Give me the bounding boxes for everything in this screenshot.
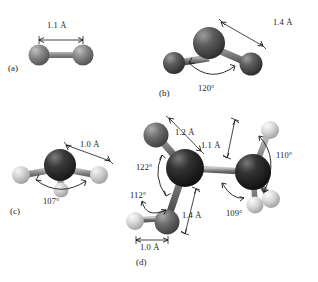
- atom-left-b: [163, 52, 185, 74]
- panel-d-graphic: [128, 110, 318, 282]
- bond-angle-d-3: 109°: [226, 208, 243, 218]
- atom-upper-left-d: [144, 123, 169, 148]
- bond-length-c-1: 1.0 Å: [80, 139, 99, 149]
- panel-c-caption: (c): [10, 206, 20, 216]
- bond-angle-b-1: 120°: [198, 83, 215, 93]
- atom-center-right-d: [235, 154, 271, 190]
- bond-length-d-2: 1.1 Å: [201, 140, 220, 150]
- dimension-line-b-1: [219, 19, 266, 49]
- atom-center-b: [193, 27, 225, 59]
- atom-left-c: [12, 166, 30, 184]
- panel-b: 1.4 Å 120° (b): [159, 0, 318, 105]
- panel-d: 1.2 Å 1.1 Å 1.4 Å 1.0 Å 122° 112° 109° 1…: [128, 110, 318, 282]
- atom-lower-right-2-d: [262, 190, 280, 208]
- atom-lower-right-1-d: [247, 197, 264, 214]
- panel-d-caption: (d): [136, 257, 147, 267]
- bond-angle-d-2: 112°: [130, 190, 146, 200]
- bond-length-b-1: 1.4 Å: [273, 17, 292, 27]
- molecular-geometry-figure: 1.1 Å (a): [0, 0, 318, 282]
- atom-right-a: [73, 45, 94, 66]
- bond-length-d-3: 1.4 Å: [182, 210, 201, 220]
- atom-left-a: [29, 45, 50, 66]
- atom-upper-right-d: [261, 121, 279, 139]
- atom-far-left-d: [126, 212, 144, 230]
- bond-length-d-1: 1.2 Å: [175, 127, 194, 137]
- atom-lower-left-d: [155, 210, 180, 235]
- bond-angle-d-4: 110°: [276, 150, 292, 160]
- atom-center-left-d: [166, 149, 204, 187]
- bond-angle-c-1: 107°: [43, 196, 60, 206]
- atom-right-c: [90, 166, 108, 184]
- panel-b-graphic: [159, 0, 318, 105]
- panel-a: 1.1 Å (a): [0, 0, 159, 100]
- bond-angle-d-1: 122°: [136, 162, 153, 172]
- dimension-line-a: [39, 36, 83, 44]
- atom-center-c: [44, 149, 76, 181]
- panel-a-graphic: [0, 0, 159, 100]
- panel-b-caption: (b): [159, 88, 170, 98]
- dimension-line-d-2: [223, 118, 239, 159]
- atom-right-b: [240, 53, 263, 76]
- bond-length-d-4: 1.0 Å: [140, 242, 159, 252]
- panel-a-caption: (a): [8, 63, 18, 73]
- angle-arc-d-3: [222, 183, 244, 201]
- bond-length-a-1: 1.1 Å: [47, 20, 66, 30]
